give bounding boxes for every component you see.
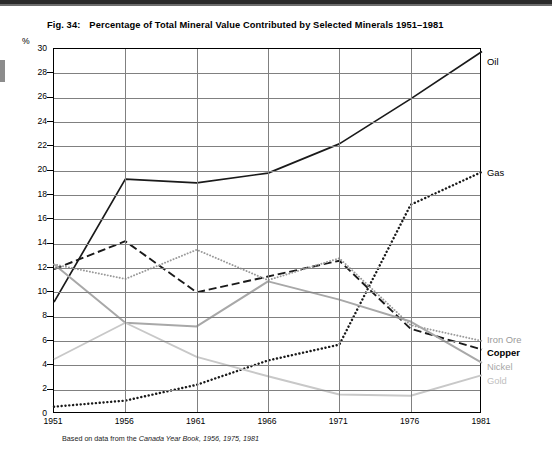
series-label-iron-ore: Iron Ore [487, 335, 521, 345]
gridline-horizontal [54, 195, 480, 196]
y-axis-tick-label: 8 [17, 311, 47, 320]
x-axis-tick-label: 1981 [461, 417, 501, 426]
y-axis-tick-label: 20 [17, 165, 47, 174]
x-axis: 1951195619611966197119761981 [53, 417, 481, 431]
y-axis-tick-label: 10 [17, 287, 47, 296]
figure-page: Fig. 34:Percentage of Total Mineral Valu… [0, 0, 552, 449]
x-axis-tick-label: 1966 [247, 417, 287, 426]
scan-artifact-top-bar-2 [0, 4, 552, 6]
y-axis-tick-label: 22 [17, 141, 47, 150]
gridline-horizontal [54, 98, 480, 99]
gridline-vertical [125, 49, 126, 412]
gridline-vertical [411, 49, 412, 412]
source-prefix: Based on data from the [62, 434, 139, 443]
y-axis-tick-label: 26 [17, 92, 47, 101]
chart-plot-area [53, 48, 481, 413]
y-axis: 024681012141618202224262830 [0, 48, 47, 413]
source-citation: Canada Year Book, 1956, 1975, 1981 [139, 434, 259, 443]
gridline-horizontal [54, 317, 480, 318]
y-axis-tick-label: 30 [17, 44, 47, 53]
gridline-vertical [268, 49, 269, 412]
gridline-horizontal [54, 73, 480, 74]
gridline-horizontal [54, 146, 480, 147]
gridline-vertical [197, 49, 198, 412]
gridline-horizontal [54, 219, 480, 220]
y-axis-tick-label: 16 [17, 214, 47, 223]
series-label-nickel: Nickel [487, 362, 513, 372]
x-axis-tick-label: 1976 [390, 417, 430, 426]
figure-title: Fig. 34:Percentage of Total Mineral Valu… [47, 20, 443, 30]
y-axis-tick-label: 6 [17, 336, 47, 345]
source-note: Based on data from the Canada Year Book,… [62, 434, 259, 443]
gridline-horizontal [54, 171, 480, 172]
series-label-gold: Gold [487, 376, 507, 386]
y-axis-tick-label: 2 [17, 384, 47, 393]
figure-title-text: Percentage of Total Mineral Value Contri… [89, 20, 443, 30]
gridline-vertical [339, 49, 340, 412]
y-axis-tick-label: 18 [17, 190, 47, 199]
gridline-horizontal [54, 122, 480, 123]
x-axis-tick-label: 1971 [318, 417, 358, 426]
series-label-gas: Gas [487, 168, 504, 178]
series-label-copper: Copper [487, 348, 520, 358]
gridline-horizontal [54, 244, 480, 245]
y-axis-tick-label: 24 [17, 117, 47, 126]
gridline-horizontal [54, 268, 480, 269]
x-axis-tick-label: 1961 [176, 417, 216, 426]
y-axis-tick-label: 4 [17, 360, 47, 369]
gridline-horizontal [54, 292, 480, 293]
gridline-horizontal [54, 365, 480, 366]
y-axis-tick-label: 14 [17, 238, 47, 247]
x-axis-tick-label: 1951 [33, 417, 73, 426]
figure-number: Fig. 34: [47, 20, 80, 30]
y-axis-tick-label: 28 [17, 68, 47, 77]
gridline-horizontal [54, 341, 480, 342]
x-axis-tick-label: 1956 [104, 417, 144, 426]
gridline-horizontal [54, 390, 480, 391]
y-axis-tick-label: 12 [17, 263, 47, 272]
series-label-oil: Oil [487, 57, 498, 67]
